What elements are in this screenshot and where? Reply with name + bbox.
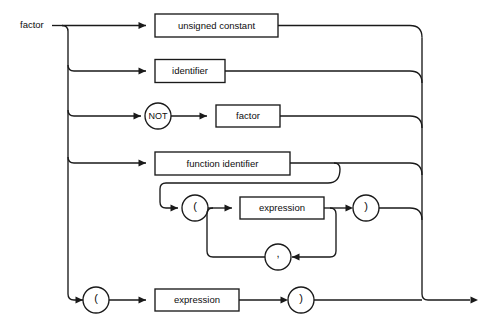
railroad-diagram: factor unsigned constant identifier NOT [0,0,496,331]
railroad-diagram-canvas: factor unsigned constant identifier NOT [0,0,496,331]
terminal-label-rparen-args: ) [364,200,368,212]
arrow-paren-group [76,297,84,304]
arrow-not [134,113,142,120]
box-label-unsigned-constant: unsigned constant [178,20,255,31]
terminal-label-lparen-args: ( [193,200,197,212]
start-label: factor [20,19,44,30]
terminal-label-not: NOT [149,111,169,121]
exit-rparen-args [379,208,422,220]
arrow-rparen-group [281,297,289,304]
arrow-diagram-exit [471,297,479,304]
arrow-rparen-args [346,205,354,212]
box-label-function-identifier: function identifier [187,158,259,169]
exit-unsigned-constant [278,26,422,38]
terminal-label-comma-separator: , [276,247,279,259]
right-rail [422,38,470,301]
terminal-label-rparen-group: ) [299,292,303,304]
arrow-function-identifier [139,160,147,167]
branch-line-identifier [68,65,146,71]
arrow-expression-paren [139,297,147,304]
arrow-identifier [139,68,147,75]
branch-line-not [68,110,141,116]
exit-factor [280,116,422,128]
box-label-factor: factor [236,110,260,121]
box-label-identifier: identifier [172,65,208,76]
box-label-expression-paren: expression [174,294,220,305]
branch-line-function-identifier [68,157,146,163]
terminal-label-lparen-group: ( [94,292,98,304]
arrow-comma-separator [292,254,300,261]
arrow-expression-args [225,205,233,212]
box-label-expression-args: expression [259,202,305,213]
arrow-unsigned-constant [139,22,147,29]
left-rail [62,26,68,295]
arrow-factor [200,113,208,120]
exit-function-identifier [290,163,422,175]
exit-identifier [225,71,422,83]
